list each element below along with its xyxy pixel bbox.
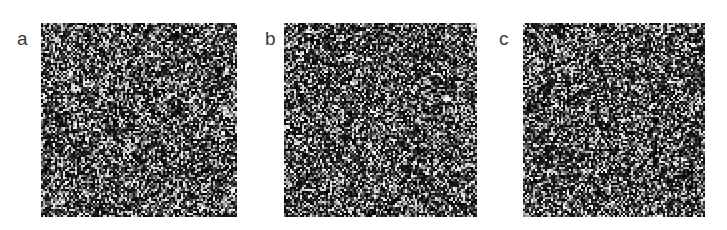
panel-image-a <box>41 23 237 217</box>
noise-canvas-a <box>41 23 237 217</box>
noise-canvas-c <box>523 23 705 217</box>
panel-image-c <box>523 23 705 217</box>
panel-image-b <box>284 23 477 217</box>
figure-root: a b c <box>0 0 727 230</box>
panel-label-a: a <box>17 29 28 48</box>
noise-canvas-b <box>284 23 477 217</box>
panel-label-b: b <box>265 29 276 48</box>
panel-label-c: c <box>499 29 509 48</box>
